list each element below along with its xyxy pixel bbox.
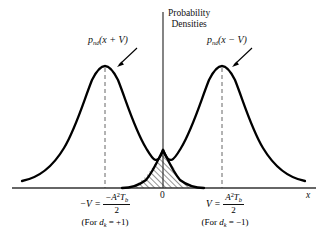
- cond-pre-plus-v: (For: [201, 217, 219, 227]
- y-axis-title-line1: Probability: [168, 8, 210, 19]
- cond-post-minus-v: = +1): [106, 217, 128, 227]
- left-gaussian-curve: [22, 66, 163, 181]
- cond-post-plus-v: = −1): [226, 217, 248, 227]
- tick-equals-minus-v: =: [95, 199, 100, 209]
- y-axis-title-line2: Densities: [168, 19, 210, 30]
- fraction-denominator-plus-v: 2: [229, 205, 238, 215]
- tick-equation-minus-v: −V = −A2Tb 2: [80, 192, 131, 215]
- fraction-plus-v: A2Tb 2: [223, 192, 244, 215]
- fraction-minus-v: −A2Tb 2: [103, 192, 130, 215]
- cond-pre-minus-v: (For: [81, 217, 99, 227]
- tick-equals-plus-v: =: [215, 199, 220, 209]
- tick-condition-minus-v: (For dk = +1): [48, 217, 162, 228]
- tick-lead-minus-v: −V: [80, 199, 92, 209]
- fraction-numerator-plus-v: A2Tb: [223, 192, 244, 204]
- left-curve-label: pnd(x + V): [88, 35, 128, 47]
- left-curve-label-arg: (x + V): [99, 34, 128, 45]
- fraction-numerator-minus-v: −A2Tb: [103, 192, 130, 204]
- right-label-arrow: [232, 48, 252, 67]
- right-gaussian-curve: [163, 66, 305, 181]
- numer-tsub-plus-v: b: [239, 196, 242, 203]
- y-axis-title: Probability Densities: [168, 8, 210, 30]
- tick-equation-plus-v: V = A2Tb 2: [206, 192, 244, 215]
- left-label-arrow: [117, 48, 137, 67]
- numer-tsub-minus-v: b: [125, 196, 128, 203]
- right-curve-label-arg: (x − V): [218, 34, 247, 45]
- right-curve-label: pnd(x − V): [207, 35, 247, 47]
- x-axis-label: x: [306, 191, 310, 201]
- tick-condition-plus-v: (For dk = −1): [168, 217, 282, 228]
- probability-density-figure: Probability Densities pnd(x + V) pnd(x −…: [0, 0, 328, 243]
- tick-label-minus-v: −V = −A2Tb 2 (For dk = +1): [48, 192, 162, 228]
- tick-label-plus-v: V = A2Tb 2 (For dk = −1): [168, 192, 282, 228]
- tick-lead-plus-v: V: [206, 199, 212, 209]
- fraction-denominator-minus-v: 2: [113, 205, 122, 215]
- overlap-shaded-region: [110, 140, 220, 192]
